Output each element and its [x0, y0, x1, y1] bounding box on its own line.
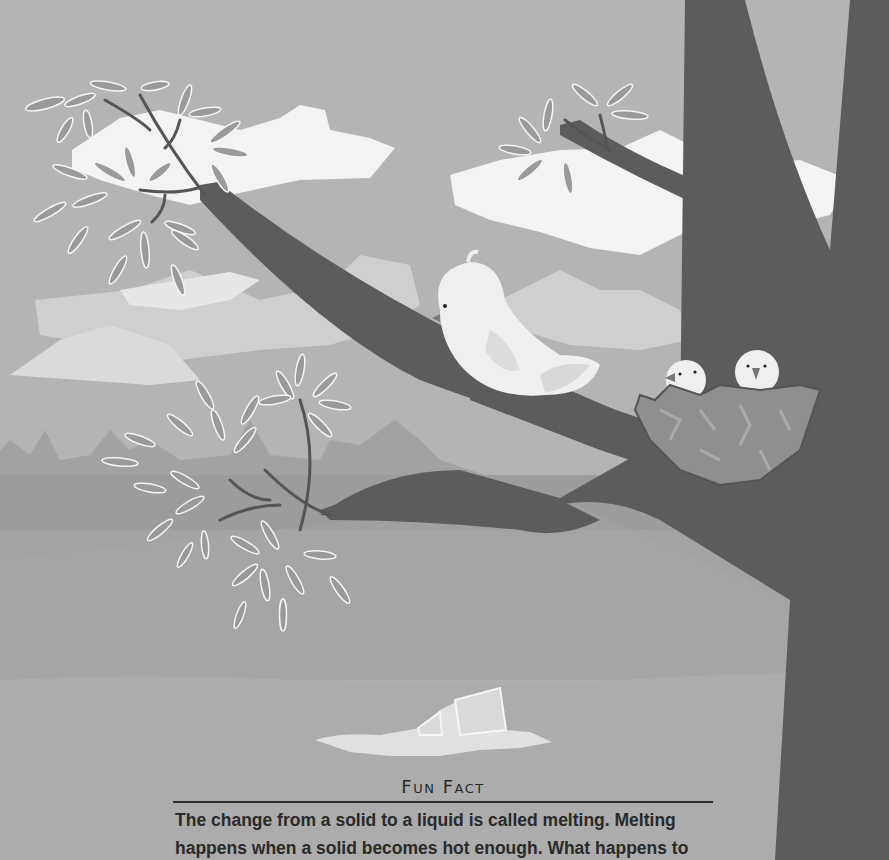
- fun-fact-title: Fun Fact: [173, 776, 713, 803]
- illustration: [0, 0, 889, 860]
- fun-fact-box: Fun Fact The change from a solid to a li…: [173, 776, 713, 860]
- fun-fact-line: The change from a solid to a liquid is c…: [175, 806, 713, 834]
- fun-fact-body: The change from a solid to a liquid is c…: [173, 806, 713, 860]
- fun-fact-line: happens when a solid becomes hot enough.…: [175, 834, 713, 860]
